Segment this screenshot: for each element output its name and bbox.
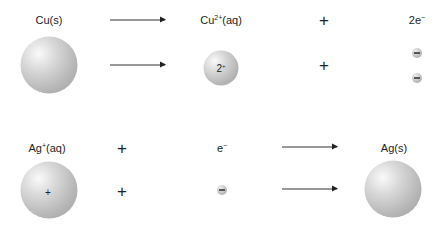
electron-label: e− xyxy=(217,142,227,154)
reaction-arrow-icon xyxy=(110,65,165,66)
reaction-arrow-icon xyxy=(282,189,337,190)
reaction-arrow-icon xyxy=(110,20,165,21)
plus-sign: + xyxy=(319,57,329,74)
electrons-symbol: 2e xyxy=(409,14,421,26)
ag-ion-charge-text: + xyxy=(45,187,51,198)
plus-sign: + xyxy=(117,183,127,200)
ag-solid-label: Ag(s) xyxy=(381,142,407,154)
electrons-label: 2e− xyxy=(409,14,425,26)
cu-ion-label: Cu2+(aq) xyxy=(200,14,242,26)
plus-sign: + xyxy=(319,12,329,29)
electron-icon xyxy=(217,185,227,195)
cu-ion-charge: 2+ xyxy=(214,14,222,21)
charge-sign: + xyxy=(222,63,226,69)
electron-icon xyxy=(412,48,422,58)
cu-ion-state: (aq) xyxy=(222,14,242,26)
cu-ion-symbol: Cu xyxy=(200,14,214,26)
cu-ion-sphere-icon: 2+ xyxy=(204,51,239,86)
ag-ion-symbol: Ag xyxy=(28,142,41,154)
ag-ion-sphere-icon: + xyxy=(21,162,78,219)
cu-ion-charge-text: 2+ xyxy=(216,63,225,74)
cu-atom-sphere-icon xyxy=(21,37,78,94)
electron-charge: − xyxy=(223,142,227,149)
ag-ion-state: (aq) xyxy=(46,142,66,154)
reaction-arrow-icon xyxy=(282,147,337,148)
ag-atom-sphere-icon xyxy=(365,161,422,218)
electron-icon xyxy=(412,73,422,83)
ag-ion-label: Ag+(aq) xyxy=(28,142,65,154)
cu-solid-label: Cu(s) xyxy=(36,14,63,26)
plus-sign: + xyxy=(117,140,127,157)
electrons-charge: − xyxy=(421,14,425,21)
